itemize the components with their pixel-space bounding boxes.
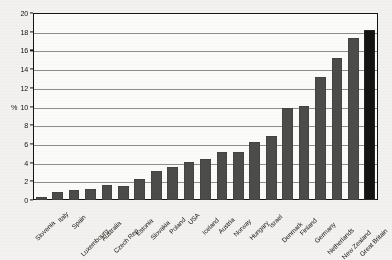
bar-slot [364, 13, 375, 200]
bar [102, 185, 113, 200]
bar [332, 58, 343, 200]
bar [233, 152, 244, 200]
bar-slot [118, 13, 129, 200]
y-tick-label: 16 [20, 46, 28, 55]
bar-slot [299, 13, 310, 200]
x-tick-label: Finland [298, 217, 318, 237]
bar-slot [332, 13, 343, 200]
bar [69, 190, 80, 200]
bar-slot [282, 13, 293, 200]
bar [217, 152, 228, 200]
y-tick-label: 2 [24, 177, 28, 186]
bar [167, 167, 178, 200]
bar [348, 38, 359, 200]
bar [315, 77, 326, 200]
bar [134, 179, 145, 200]
y-tick-label: 0 [24, 196, 28, 205]
y-tick-label: 4 [24, 158, 28, 167]
bar-slot [249, 13, 260, 200]
bar [299, 106, 310, 200]
bar [85, 189, 96, 200]
x-tick-label: Israel [268, 213, 284, 229]
x-tick-label: Iceland [200, 217, 219, 236]
x-axis-labels: SloveniaItalySpainLuxembourgAustraliaCze… [33, 202, 378, 251]
bar [282, 108, 293, 200]
bar [249, 142, 260, 200]
bar [266, 136, 277, 200]
x-tick-label: USA [187, 211, 201, 225]
bar-slot [69, 13, 80, 200]
bar [52, 192, 63, 200]
y-tick-label: 18 [20, 27, 28, 36]
y-tick-label: 6 [24, 139, 28, 148]
bar [36, 197, 47, 200]
y-tick-label: 10 [20, 102, 28, 111]
bar [118, 186, 129, 200]
bar-slot [233, 13, 244, 200]
bar-slot [315, 13, 326, 200]
y-axis-title: % [11, 102, 17, 111]
bar [200, 159, 211, 200]
x-tick-label: Germany [313, 221, 337, 245]
bar-slot [217, 13, 228, 200]
bar-slot [85, 13, 96, 200]
y-tick-label: 8 [24, 121, 28, 130]
bar-slot [184, 13, 195, 200]
bar-slot [36, 13, 47, 200]
y-tick-label: 14 [20, 65, 28, 74]
x-tick-label: Italy [56, 210, 69, 223]
bar-slot [102, 13, 113, 200]
bar [151, 171, 162, 200]
bar-slot [167, 13, 178, 200]
x-tick-label: Poland [167, 216, 186, 235]
x-tick-label: Slovenia [34, 219, 56, 241]
y-tick-label: 20 [20, 9, 28, 18]
bar-slot [134, 13, 145, 200]
bar [184, 162, 195, 200]
bar-slot [266, 13, 277, 200]
bar-slot [200, 13, 211, 200]
x-tick-label: Spain [70, 214, 87, 231]
y-axis: % 02468101214161820 [0, 0, 33, 201]
bar-slot [348, 13, 359, 200]
y-tick-label: 12 [20, 83, 28, 92]
bar [364, 30, 375, 200]
bar-series [33, 13, 378, 200]
bar-slot [151, 13, 162, 200]
bar-slot [52, 13, 63, 200]
